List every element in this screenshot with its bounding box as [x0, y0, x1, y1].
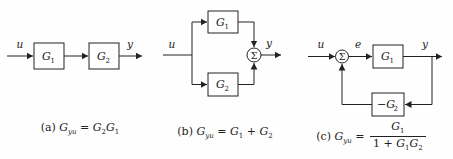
- c-g1-label-subscript: 1: [390, 57, 394, 65]
- c-neg-g2-label: −G: [377, 98, 395, 111]
- block-diagram-figure: u y G 1 G 2 u y Σ G 1 G 2: [0, 0, 453, 159]
- b-g1-to-summer-arrow: [238, 22, 254, 47]
- caption-c: (c) Gyu = G11 + G1G2: [303, 121, 439, 152]
- diagram-c-feedback: [308, 45, 442, 116]
- caption-b: (b) Gyu = G1 + G2: [163, 126, 287, 140]
- c-feedback-down-arrow: [405, 57, 432, 105]
- c-error-signal-label: e: [355, 38, 361, 50]
- b-output-signal-label: y: [265, 37, 273, 49]
- c-input-signal-label: u: [318, 38, 325, 50]
- b-input-signal-label: u: [169, 38, 176, 50]
- diagram-a-series: [7, 43, 142, 69]
- c-summer-sigma-label: Σ: [339, 51, 346, 62]
- a-g1-label-subscript: 1: [51, 57, 55, 65]
- a-g2-label-subscript: 2: [106, 57, 110, 65]
- a-output-signal-label: y: [126, 38, 134, 50]
- caption-a: (a) Gyu = G2G1: [22, 122, 138, 136]
- b-g1-label-subscript: 1: [225, 23, 229, 31]
- b-summer-sigma-label: Σ: [251, 50, 258, 61]
- c-feedback-return-arrow: [342, 64, 372, 105]
- b-g2-label-subscript: 2: [225, 85, 229, 93]
- c-neg-g2-label-subscript: 2: [394, 105, 398, 113]
- b-g2-to-summer-arrow: [238, 63, 254, 85]
- a-input-signal-label: u: [17, 38, 24, 50]
- fraction: G11 + G1G2: [370, 121, 426, 152]
- c-output-signal-label: y: [421, 38, 429, 50]
